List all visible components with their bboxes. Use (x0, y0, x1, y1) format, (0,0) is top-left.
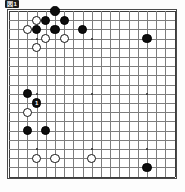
white-stone[interactable] (32, 16, 41, 25)
grid-line-horizontal (9, 121, 175, 122)
star-point (91, 93, 93, 95)
grid-line-horizontal (9, 112, 175, 113)
star-point (146, 148, 148, 150)
star-point (36, 38, 38, 40)
black-stone[interactable] (142, 34, 151, 43)
white-stone[interactable] (23, 108, 32, 117)
star-point (36, 93, 38, 95)
white-stone[interactable] (60, 34, 69, 43)
black-stone[interactable]: 1 (32, 98, 41, 107)
grid-line-horizontal (9, 177, 175, 178)
grid-line-vertical (129, 11, 130, 177)
white-stone[interactable] (50, 154, 59, 163)
grid-line-vertical (138, 11, 139, 177)
grid-line-vertical (175, 11, 176, 177)
grid-line-vertical (110, 11, 111, 177)
white-stone[interactable] (23, 25, 32, 34)
figure-caption-text: 図1 (7, 0, 17, 8)
figure-caption-badge: 図1 (5, 0, 19, 8)
grid-line-vertical (156, 11, 157, 177)
star-point (146, 93, 148, 95)
star-point (36, 148, 38, 150)
grid-line-vertical (119, 11, 120, 177)
black-stone[interactable] (60, 16, 69, 25)
grid-line-vertical (165, 11, 166, 177)
grid-line-vertical (101, 11, 102, 177)
stone-move-number: 1 (35, 100, 38, 106)
black-stone[interactable] (50, 6, 59, 15)
go-board[interactable]: 1 (7, 9, 177, 179)
white-stone[interactable] (32, 154, 41, 163)
black-stone[interactable] (50, 25, 59, 34)
star-point (91, 38, 93, 40)
grid-line-horizontal (9, 131, 175, 132)
star-point (91, 148, 93, 150)
go-diagram-figure: 図1 1 (0, 0, 185, 192)
black-stone[interactable] (142, 163, 151, 172)
grid-line-horizontal (9, 140, 175, 141)
